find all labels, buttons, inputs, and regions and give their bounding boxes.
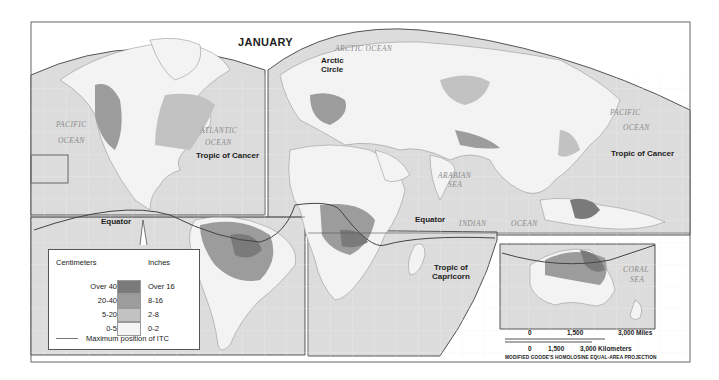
legend-row: 20-40 8-16 [49,294,199,308]
indian-ocean-label-2: OCEAN [511,219,538,229]
tropic-of-capricorn-label-2: Capricorn [432,272,470,281]
legend-header-cm: Centimeters [56,258,96,267]
legend-cm-value: 20-40 [98,296,117,305]
legend-header-in: Inches [148,258,170,267]
scale-km-end: 3,000 Kilometers [580,345,632,352]
legend: Centimeters Inches Over 40 Over 16 20-40… [48,249,200,350]
pacific-ocean-label-east-1: PACIFIC [610,108,641,118]
arctic-ocean-label: ARCTIC OCEAN [335,44,392,54]
legend-row: Over 40 Over 16 [49,280,199,294]
pacific-ocean-label-west-1: PACIFIC [56,120,87,130]
legend-swatch [117,294,141,308]
pacific-ocean-label-east-2: OCEAN [623,123,650,133]
arctic-circle-label-1: Arctic [321,56,344,65]
equator-label-west: Equator [101,217,131,226]
projection-label: MODIFIED GOODE'S HOMOLOSINE EQUAL-AREA P… [505,355,657,360]
scale-miles-mid: 1,500 [567,329,583,336]
tropic-of-cancer-label-east: Tropic of Cancer [611,149,674,158]
legend-swatch [117,308,141,322]
scale-km-zero: 0 [528,345,532,352]
legend-in-value: Over 16 [148,282,175,291]
coral-sea-label-2: SEA [630,275,644,285]
atlantic-ocean-label-1: ATLANTIC [200,126,237,136]
tropic-of-cancer-label-west: Tropic of Cancer [196,151,259,160]
legend-cm-value: Over 40 [90,282,117,291]
itc-legend-label: Maximum position of ITC [86,334,169,343]
atlantic-ocean-label-2: OCEAN [205,138,232,148]
indian-ocean-label-1: INDIAN [459,219,486,229]
legend-in-value: 2-8 [148,310,159,319]
scale-km-mid: 1,500 [548,345,564,352]
tropic-of-capricorn-label-1: Tropic of [434,263,468,272]
itc-legend-line [56,338,78,339]
map-title: JANUARY [238,36,293,48]
legend-in-value: 0-2 [148,324,159,333]
equator-label-east: Equator [415,215,445,224]
scale-miles-end: 3,000 Miles [618,329,652,336]
coral-sea-label-1: CORAL [623,265,649,275]
legend-cm-value: 5-20 [102,310,117,319]
legend-in-value: 8-16 [148,296,163,305]
scale-miles-zero: 0 [528,329,532,336]
arctic-circle-label-2: Circle [321,65,343,74]
legend-row: 5-20 2-8 [49,308,199,322]
arabian-sea-label-2: SEA [448,180,462,190]
pacific-ocean-label-west-2: OCEAN [58,136,85,146]
legend-swatch [117,280,141,294]
legend-cm-value: 0-5 [106,324,117,333]
